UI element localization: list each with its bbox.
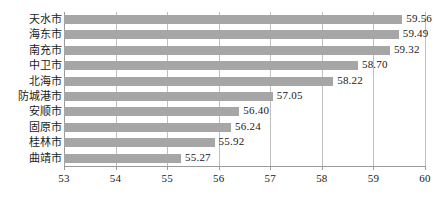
bar-row[interactable]: 55.92 [64,135,425,150]
category-label: 南充市 [0,43,62,58]
x-tick-label: 60 [410,171,439,185]
category-label: 安顺市 [0,104,62,119]
bar[interactable] [64,123,231,132]
plot-area: 59.5659.4959.3258.7058.2257.0556.4056.24… [64,12,425,166]
category-label: 中卫市 [0,58,62,73]
category-label: 防城港市 [0,89,62,104]
bar-row[interactable]: 59.32 [64,43,425,58]
x-tick [116,166,117,170]
bar-value-label: 56.24 [235,119,261,134]
category-label: 北海市 [0,74,62,89]
x-tick-label: 59 [358,171,388,185]
bar-value-label: 59.49 [403,26,429,41]
bar[interactable] [64,46,390,55]
bar[interactable] [64,77,333,86]
bar[interactable] [64,61,358,70]
x-tick-label: 56 [204,171,234,185]
bar[interactable] [64,138,215,147]
bar-row[interactable]: 59.56 [64,12,425,27]
x-tick [270,166,271,170]
category-label: 天水市 [0,12,62,27]
category-axis: 天水市海东市南充市中卫市北海市防城港市安顺市固原市桂林市曲靖市 [0,12,62,166]
bar-chart: 天水市海东市南充市中卫市北海市防城港市安顺市固原市桂林市曲靖市 59.5659.… [0,0,439,200]
bar[interactable] [64,154,181,163]
bar-value-label: 58.22 [337,73,363,88]
bar[interactable] [64,92,273,101]
x-tick [64,166,65,170]
bar-row[interactable]: 59.49 [64,27,425,42]
bar-row[interactable]: 56.24 [64,120,425,135]
bar[interactable] [64,15,402,24]
bar[interactable] [64,30,399,39]
category-label: 固原市 [0,120,62,135]
x-tick [373,166,374,170]
bar-value-label: 59.32 [394,42,420,57]
bar-row[interactable]: 56.40 [64,104,425,119]
x-tick-label: 53 [49,171,79,185]
bar-value-label: 55.92 [219,134,245,149]
bar-row[interactable]: 55.27 [64,151,425,166]
bar-value-label: 59.56 [406,11,432,26]
category-label: 曲靖市 [0,151,62,166]
bar-value-label: 56.40 [243,103,269,118]
x-tick-label: 55 [152,171,182,185]
bar-value-label: 58.70 [362,57,388,72]
x-tick [167,166,168,170]
x-tick [425,166,426,170]
bar-row[interactable]: 58.22 [64,74,425,89]
bar-value-label: 57.05 [277,88,303,103]
bar[interactable] [64,107,239,116]
x-tick [322,166,323,170]
category-label: 海东市 [0,27,62,42]
x-tick-label: 58 [307,171,337,185]
bar-row[interactable]: 58.70 [64,58,425,73]
x-tick [219,166,220,170]
bar-row[interactable]: 57.05 [64,89,425,104]
bar-value-label: 55.27 [185,150,211,165]
x-tick-label: 57 [255,171,285,185]
x-axis-line [64,166,426,167]
x-tick-label: 54 [101,171,131,185]
category-label: 桂林市 [0,135,62,150]
